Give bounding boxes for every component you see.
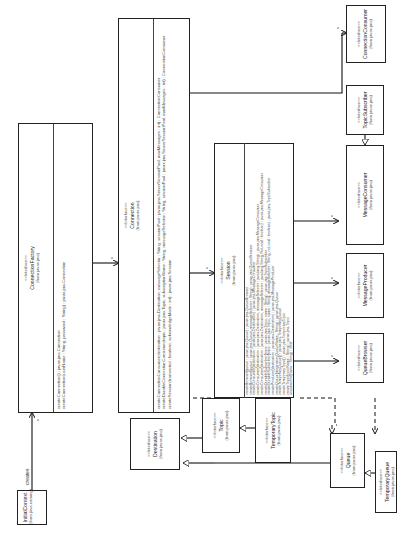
multiplicity-label: * xyxy=(330,215,336,217)
multiplicity-label: * xyxy=(36,419,42,421)
operation: createConnection(userName : String, pass… xyxy=(61,127,66,409)
class-package: (from javax.jms) xyxy=(135,19,141,412)
uml-diagram-canvas: creates * * * * * * * InitialContext (fr… xyxy=(0,0,398,533)
class-topic[interactable]: <<Interface>> Topic (from javax.jms) xyxy=(202,398,240,453)
class-package: (from javax.jms) xyxy=(368,146,374,244)
operations-compartment: createConnectionConsumer(destination : j… xyxy=(153,19,174,412)
class-package: (from javax.jms) xyxy=(276,399,282,462)
multiplicity-label: * xyxy=(330,277,336,279)
operation: createSession(transacted : boolean, ackn… xyxy=(167,22,172,409)
class-message-producer[interactable]: <<Interface>> MessageProducer (from java… xyxy=(346,253,384,318)
class-session[interactable]: <<Interface>> Session (from javax.jms) xyxy=(214,143,294,398)
class-connection-consumer[interactable]: <<Interface>> ConnectionConsumer (from j… xyxy=(346,5,386,63)
class-temporary-topic[interactable]: <<Interface>> TemporaryTopic (from javax… xyxy=(255,398,291,463)
class-topic-subscriber[interactable]: <<Interface>> TopicSubscriber (from java… xyxy=(346,85,384,135)
class-package: (from javax.jms) xyxy=(35,124,41,412)
class-queue-browser[interactable]: <<Interface>> QueueBrowser (from javax.j… xyxy=(346,333,384,383)
class-package: (from javax.jms) xyxy=(224,399,230,452)
operations-compartment: createConnection() : javax.jms.Connectio… xyxy=(53,124,69,412)
multiplicity-label: * xyxy=(330,355,336,357)
class-package: (from javax.jms) xyxy=(158,419,164,469)
multiplicity-label: * xyxy=(336,27,342,29)
class-package: (from javax.jms) xyxy=(368,6,374,62)
class-package: (from javax.jms) xyxy=(390,452,396,512)
multiplicity-label: * xyxy=(205,267,211,269)
class-package: (from javax.jms) xyxy=(231,144,237,397)
class-connection[interactable]: <<Interface>> Connection (from javax.jms… xyxy=(118,18,190,413)
class-initial-context[interactable]: InitialContext (from java.naming) xyxy=(17,490,47,525)
class-package: (from javax.jms) xyxy=(351,434,357,487)
class-temporary-queue[interactable]: <<Interface>> TemporaryQueue (from javax… xyxy=(375,451,397,513)
class-package: (from java.naming) xyxy=(28,491,34,524)
class-destination[interactable]: <<Interface>> Destination (from javax.jm… xyxy=(130,418,180,470)
class-package: (from javax.jms) xyxy=(368,334,374,382)
class-package: (from javax.jms) xyxy=(368,254,374,317)
class-message-consumer[interactable]: <<Interface>> MessageConsumer (from java… xyxy=(346,145,384,245)
multiplicity-label: * xyxy=(110,257,116,259)
class-connection-factory[interactable]: <<Interface>> ConnectionFactory (from ja… xyxy=(18,123,93,413)
class-queue[interactable]: <<Interface>> Queue (from javax.jms) xyxy=(330,433,365,488)
class-package: (from javax.jms) xyxy=(368,86,374,134)
creates-label: creates xyxy=(24,469,30,485)
